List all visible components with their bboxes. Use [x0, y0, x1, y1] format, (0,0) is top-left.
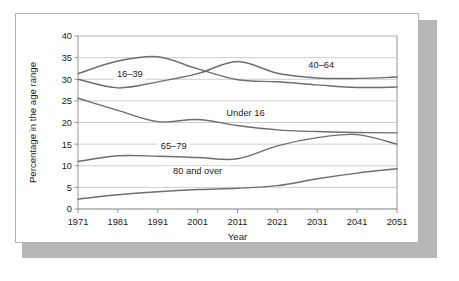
series-label-40-64: 40–64	[308, 60, 334, 70]
x-axis-tick-label: 1981	[108, 217, 129, 227]
x-axis-tick-label: 2021	[267, 217, 288, 227]
series-line-80-and-over	[78, 169, 397, 199]
x-axis-title: Year	[228, 231, 248, 242]
series-label-65-79: 65–79	[161, 141, 187, 151]
series-label-16-39: 16–39	[117, 69, 143, 79]
chart-card: 0510152025303540197119811991200120112021…	[15, 13, 419, 243]
series-label-80-and-over: 80 and over	[173, 166, 222, 176]
y-axis-tick-label: 30	[62, 75, 72, 85]
line-chart: 0510152025303540197119811991200120112021…	[16, 14, 420, 244]
x-axis-tick-label: 2001	[187, 217, 208, 227]
x-axis-tick-label: 1991	[147, 217, 168, 227]
y-axis-tick-label: 5	[67, 183, 72, 193]
x-axis-tick-label: 2031	[307, 217, 328, 227]
y-axis-title: Percentage in the age range	[27, 62, 38, 183]
x-axis-tick-label: 2051	[387, 217, 408, 227]
y-axis-tick-label: 40	[62, 31, 72, 41]
x-axis-tick-label: 2041	[347, 217, 368, 227]
screenshot-root: 0510152025303540197119811991200120112021…	[0, 0, 459, 281]
x-axis-tick-label: 1971	[68, 217, 89, 227]
series-line-65-79	[78, 134, 397, 161]
chart-svg: 0510152025303540197119811991200120112021…	[16, 14, 420, 244]
y-axis-tick-label: 10	[62, 161, 72, 171]
y-axis-tick-label: 25	[62, 96, 72, 106]
y-axis-tick-label: 15	[62, 140, 72, 150]
y-axis-tick-label: 35	[62, 53, 72, 63]
y-axis-tick-label: 0	[67, 204, 72, 214]
series-label-under-16: Under 16	[226, 108, 264, 118]
x-axis-tick-label: 2011	[228, 217, 248, 227]
y-axis-tick-label: 20	[62, 118, 72, 128]
